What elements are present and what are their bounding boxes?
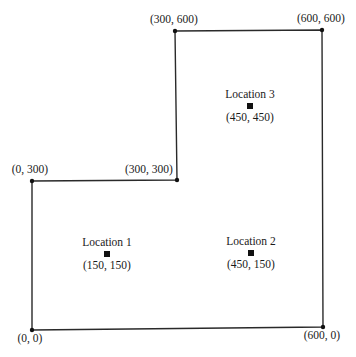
square-marker-icon <box>248 250 254 256</box>
vertex-label: (300, 600) <box>150 13 198 26</box>
vertex-group: (0, 0)(600, 0)(600, 600)(300, 600)(300, … <box>12 12 345 345</box>
location-name: Location 1 <box>82 236 132 248</box>
location-coords: (450, 150) <box>227 258 275 271</box>
location-name: Location 3 <box>225 88 275 100</box>
floor-plan-diagram: (0, 0)(600, 0)(600, 600)(300, 600)(300, … <box>0 0 356 357</box>
vertex-dot <box>175 178 179 182</box>
vertex-dot <box>30 179 34 183</box>
vertex-label: (300, 300) <box>125 163 173 176</box>
vertex-dot <box>173 29 177 33</box>
location-coords: (150, 150) <box>83 259 131 272</box>
location-marker: Location 3(450, 450) <box>225 88 275 124</box>
vertex-dot <box>320 28 324 32</box>
square-marker-icon <box>104 251 110 257</box>
location-marker: Location 2(450, 150) <box>226 235 276 271</box>
location-coords: (450, 450) <box>226 111 274 124</box>
vertex-label: (600, 600) <box>297 12 345 25</box>
location-marker: Location 1(150, 150) <box>82 236 132 272</box>
vertex-label: (600, 0) <box>304 329 341 342</box>
vertex-label: (0, 0) <box>18 332 43 345</box>
square-marker-icon <box>247 103 253 109</box>
vertex-label: (0, 300) <box>12 163 49 176</box>
location-name: Location 2 <box>226 235 276 247</box>
